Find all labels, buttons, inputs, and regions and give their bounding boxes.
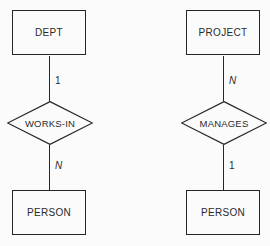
cardinality-project-manages: N xyxy=(229,75,236,86)
cardinality-dept-works-in: 1 xyxy=(55,75,61,86)
entity-dept: DEPT xyxy=(12,10,86,55)
er-diagram-manages: PROJECT N MANAGES 1 PERSON xyxy=(135,0,270,246)
entity-dept-label: DEPT xyxy=(35,27,63,38)
er-diagram-canvas: DEPT 1 WORKS-IN N PERSON PROJECT N MANAG… xyxy=(0,0,270,246)
entity-project-label: PROJECT xyxy=(199,27,248,38)
relationship-manages: MANAGES xyxy=(181,101,267,145)
connector-dept-to-works-in xyxy=(49,56,50,101)
connector-works-in-to-person xyxy=(49,145,50,190)
connector-manages-to-person xyxy=(223,145,224,190)
relationship-manages-label: MANAGES xyxy=(181,101,267,145)
relationship-works-in: WORKS-IN xyxy=(7,101,93,145)
entity-person-left-label: PERSON xyxy=(27,207,71,218)
relationship-works-in-label: WORKS-IN xyxy=(7,101,93,145)
entity-person-right: PERSON xyxy=(186,190,260,235)
er-diagram-works-in: DEPT 1 WORKS-IN N PERSON xyxy=(0,0,135,246)
connector-project-to-manages xyxy=(223,56,224,101)
entity-person-left: PERSON xyxy=(12,190,86,235)
entity-project: PROJECT xyxy=(186,10,260,55)
cardinality-manages-person: 1 xyxy=(229,160,235,171)
entity-person-right-label: PERSON xyxy=(201,207,245,218)
cardinality-works-in-person: N xyxy=(55,160,62,171)
